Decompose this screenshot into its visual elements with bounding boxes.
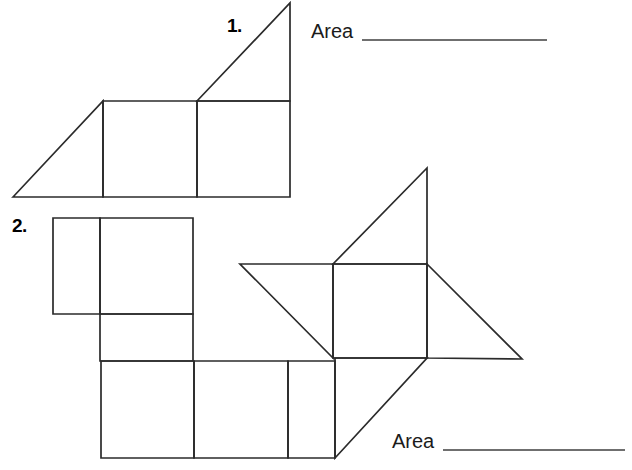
- problem-1-area-label: Area: [311, 20, 353, 44]
- figures-canvas: [0, 0, 632, 470]
- figure-1-left-square: [103, 101, 197, 197]
- figure-2-bottom-rectangle-3: [288, 361, 335, 458]
- figure-1-right-square: [197, 101, 290, 197]
- figure-2-center-square: [333, 264, 427, 358]
- problem-2-area-answer-group: Area: [392, 424, 625, 454]
- figure-2-bottom-square-2: [194, 361, 288, 458]
- figure-2-upper-triangle: [333, 168, 427, 264]
- figure-1-shape-group: [13, 3, 290, 197]
- figure-2-upper-left-small-square: [53, 218, 100, 314]
- figure-2-left-triangle: [240, 264, 333, 358]
- worksheet-page: 1. 2. Area Area: [0, 0, 632, 470]
- problem-2-number: 2.: [12, 216, 27, 235]
- figure-2-bottom-square-1: [101, 361, 194, 458]
- problem-2-area-answer-blank[interactable]: [443, 449, 625, 451]
- figure-1-left-triangle: [13, 101, 103, 197]
- figure-2-upper-right-square: [100, 218, 193, 314]
- problem-1-area-answer-group: Area: [311, 14, 547, 44]
- figure-2-right-triangle: [427, 264, 522, 359]
- figure-2-middle-rectangle: [100, 314, 193, 361]
- figure-2-shape-group: [53, 168, 522, 458]
- problem-2-area-label: Area: [392, 430, 434, 454]
- problem-1-number: 1.: [227, 16, 242, 35]
- figure-1-top-triangle: [197, 3, 290, 101]
- problem-1-area-answer-blank[interactable]: [362, 39, 547, 41]
